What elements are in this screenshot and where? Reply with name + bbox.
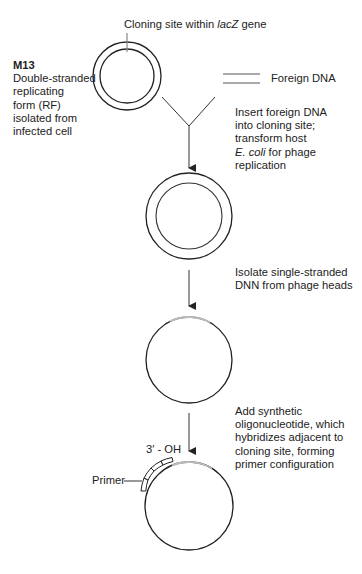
step3-line: primer configuration: [235, 458, 344, 471]
step1-line4-rest: for phage: [265, 146, 315, 158]
step3-line: cloning site, forming: [235, 445, 344, 458]
primed-circle: [145, 462, 233, 550]
m13-desc-line: infected cell: [13, 125, 96, 138]
m13-desc-line: Double-stranded: [13, 72, 96, 85]
single-stranded-circle: [146, 317, 232, 403]
step1-line: Insert foreign DNA: [235, 106, 327, 119]
foreign-dna-label: Foreign DNA: [271, 72, 336, 85]
gene-suffix-text: gene: [238, 18, 266, 30]
lacz-gene-text: lacZ: [217, 18, 238, 30]
step2-line: Isolate single-stranded: [235, 266, 353, 279]
step3-line: hybridizes adjacent to: [235, 431, 344, 444]
m13-label: M13 Double-stranded replicating form (RF…: [13, 59, 96, 138]
step3-line: oligonucleotide, which: [235, 418, 344, 431]
primer-segment: [141, 458, 173, 492]
step3-label: Add synthetic oligonucleotide, which hyb…: [235, 405, 344, 471]
step3-line: Add synthetic: [235, 405, 344, 418]
step1-line: replication: [235, 159, 327, 172]
merge-arrow: [162, 97, 215, 168]
rf-double-circle: [93, 33, 161, 110]
m13-desc-line: replicating: [13, 85, 96, 98]
cloning-site-text: Cloning site within: [124, 18, 217, 30]
three-prime-oh-label: 3′ - OH: [146, 443, 181, 456]
m13-desc-line: form (RF): [13, 99, 96, 112]
step1-line: into cloning site;: [235, 119, 327, 132]
step1-line: transform host: [235, 132, 327, 145]
step2-line: DNN from phage heads: [235, 279, 353, 292]
m13-title: M13: [13, 59, 96, 72]
foreign-dna-strands: [223, 74, 260, 83]
recombinant-double-circle: [146, 173, 232, 259]
m13-desc-line: isolated from: [13, 112, 96, 125]
ecoli-text: E. coli: [235, 146, 265, 158]
step2-label: Isolate single-stranded DNN from phage h…: [235, 266, 353, 292]
step1-line: E. coli for phage: [235, 146, 327, 159]
step1-label: Insert foreign DNA into cloning site; tr…: [235, 106, 327, 172]
cloning-site-label: Cloning site within lacZ gene: [124, 18, 266, 31]
primer-label: Primer: [92, 474, 125, 487]
